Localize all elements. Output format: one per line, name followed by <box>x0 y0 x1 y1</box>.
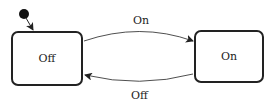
state-on-label: On <box>221 50 237 63</box>
transition-on-to-off <box>85 74 193 81</box>
transition-label-off: Off <box>131 89 148 102</box>
state-on: On <box>194 30 264 83</box>
initial-transition-arrow <box>26 18 33 30</box>
initial-state-dot <box>19 9 29 19</box>
transition-label-on: On <box>133 14 149 27</box>
state-off-label: Off <box>39 52 56 65</box>
state-off: Off <box>11 31 83 86</box>
transition-off-to-on <box>84 32 193 42</box>
